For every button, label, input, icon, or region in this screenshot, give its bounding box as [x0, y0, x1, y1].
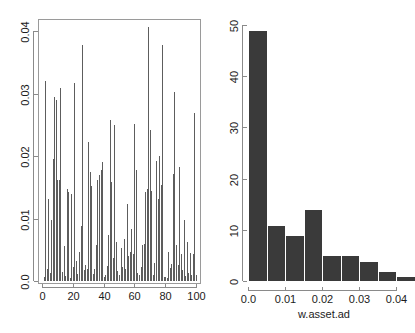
- y-tick-label: 50: [228, 20, 240, 32]
- x-axis-title: w.asset.ad: [297, 308, 350, 320]
- x-tick-label: 0.0: [241, 293, 256, 305]
- y-tick-label: 0: [228, 279, 240, 285]
- histogram-bar: [323, 256, 342, 282]
- y-tick-label: 0.0: [19, 274, 31, 289]
- x-tick-label: 60: [128, 290, 140, 302]
- y-axis: 01020304050: [228, 20, 247, 285]
- spike-plot-panel: 0.00.010.020.030.04020406080100: [0, 0, 207, 333]
- histogram-svg: 010203040500.00.010.020.030.04w.asset.ad: [207, 0, 415, 333]
- plot-box: [39, 20, 201, 284]
- x-axis: 020406080100: [39, 284, 205, 303]
- histogram-bar: [249, 31, 268, 282]
- histogram-bar: [304, 210, 323, 282]
- y-tick-label: 0.03: [19, 84, 31, 105]
- figure-root: 0.00.010.020.030.04020406080100 01020304…: [0, 0, 415, 333]
- y-tick-label: 10: [228, 225, 240, 237]
- x-tick-label: 0: [39, 290, 45, 302]
- spike-plot-svg: 0.00.010.020.030.04020406080100: [0, 0, 207, 333]
- y-tick-label: 0.01: [19, 209, 31, 230]
- histogram-panel: 010203040500.00.010.020.030.04w.asset.ad: [207, 0, 415, 333]
- histogram-bar: [397, 276, 415, 281]
- y-axis: 0.00.010.020.030.04: [19, 21, 38, 289]
- histogram-bar: [341, 256, 360, 282]
- x-tick-label: 0.03: [349, 293, 370, 305]
- histogram-bar: [378, 271, 397, 281]
- x-tick-label: 40: [98, 290, 110, 302]
- spike-series: [45, 27, 197, 281]
- y-tick-label: 30: [228, 122, 240, 134]
- y-tick-label: 20: [228, 174, 240, 186]
- x-tick-label: 0.01: [275, 293, 296, 305]
- x-tick-label: 20: [67, 290, 79, 302]
- x-tick-label: 100: [187, 290, 205, 302]
- x-tick-label: 80: [159, 290, 171, 302]
- histogram-bar: [267, 225, 286, 281]
- histogram-bar: [360, 261, 379, 281]
- histogram-bar: [286, 235, 305, 281]
- x-tick-label: 0.04: [386, 293, 407, 305]
- y-tick-label: 0.04: [19, 21, 31, 42]
- histogram-bars: [249, 31, 415, 282]
- x-tick-label: 0.02: [312, 293, 333, 305]
- y-tick-label: 40: [228, 71, 240, 83]
- x-axis: 0.00.010.020.030.04: [241, 287, 407, 306]
- y-tick-label: 0.02: [19, 146, 31, 167]
